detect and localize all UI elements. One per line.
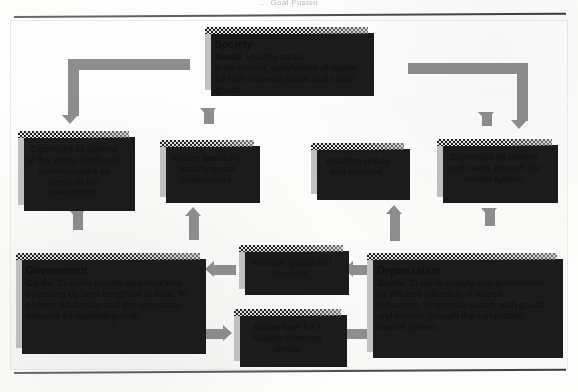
node-laws-business-text: Makes laws for a healthy business climat… (241, 322, 334, 355)
node-laws-social-text: Makes laws for a healthy social environm… (167, 153, 247, 186)
node-government[interactable]: Government Goals: To serve society and b… (16, 253, 200, 348)
box-cap-pattern (367, 253, 557, 260)
running-head: ... Goal Fusion (0, 0, 578, 8)
node-voting-text: Expresses its desires at the voting boot… (25, 144, 122, 198)
goals-label: Goals (26, 278, 52, 288)
connector-society-to-voting-vertical (68, 59, 79, 116)
box-cap-pattern (16, 253, 200, 260)
connector-society-to-laws-social (200, 108, 216, 117)
arrowhead-down-icon (62, 115, 78, 124)
node-expresses-desires-voting[interactable]: Expresses its desires at the voting boot… (18, 131, 129, 205)
node-expresses-desires-market[interactable]: Expresses its desires and needs through … (437, 139, 552, 197)
connector-society-to-market-vertical (517, 63, 528, 121)
arrowhead-up-icon (386, 205, 402, 214)
connector-society-to-market-horizontal (408, 63, 528, 74)
connector-market-to-organization (481, 208, 497, 217)
arrowhead-right-icon (223, 325, 232, 341)
node-society-goals: Goals: Healthy social environment, satis… (215, 52, 359, 96)
connector-society-to-voting-horizontal (68, 59, 190, 70)
node-provides-goods-top[interactable]: Provides goods and services. (311, 143, 404, 194)
box-cap-pattern (160, 140, 254, 147)
node-provides-goods-mid[interactable]: Provides goods and services. (239, 245, 343, 289)
node-makes-laws-social[interactable]: Makes laws for a healthy social environm… (160, 140, 254, 197)
box-cap-pattern (205, 27, 368, 34)
connector-government-to-laws-social (185, 207, 201, 216)
node-organization-title: Organization (377, 265, 548, 277)
goals-label: Goals (377, 278, 403, 288)
arrowhead-left-icon (205, 261, 214, 277)
connector-society-to-provides-top (478, 112, 494, 121)
connector-voting-to-government (69, 210, 85, 219)
goals-label: Goals (215, 52, 241, 62)
node-market-system-text: Expresses its desires and needs through … (444, 152, 545, 185)
box-cap-pattern (18, 131, 129, 138)
node-organization-goals: Goals: To serve society and government b… (377, 278, 548, 333)
connector-organization-to-provides-top (386, 205, 402, 214)
node-government-goals: Goals: To serve society and business by … (26, 278, 191, 322)
node-provides-mid-text: Provides goods and services. (246, 258, 336, 280)
box-cap-pattern (234, 309, 341, 316)
node-provides-top-text: Provides goods and services. (318, 156, 397, 178)
arrowhead-up-icon (185, 207, 201, 216)
box-cap-pattern (239, 245, 343, 252)
arrowhead-down-icon (511, 120, 527, 129)
box-cap-pattern (311, 143, 404, 150)
figure-page: ... Goal Fusion Society (0, 0, 578, 392)
node-society-title: Society (215, 39, 359, 51)
node-society[interactable]: Society Goals: Healthy social environmen… (205, 27, 368, 90)
box-cap-pattern (437, 139, 552, 146)
node-organization[interactable]: Organization Goals: To serve society and… (367, 253, 557, 352)
top-rule (14, 13, 566, 18)
node-makes-laws-business[interactable]: Makes laws for a healthy business climat… (234, 309, 341, 361)
node-organization-goals-text: : To serve society and government by eff… (377, 278, 544, 332)
node-government-title: Government (26, 265, 191, 277)
